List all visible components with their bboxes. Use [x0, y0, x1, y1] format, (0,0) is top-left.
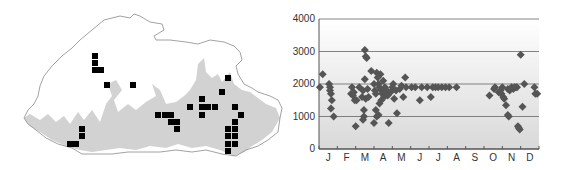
occurrence-square — [79, 133, 85, 139]
occurrence-square — [162, 112, 168, 118]
occurrence-square — [174, 119, 180, 125]
x-tick-label: S — [468, 152, 482, 163]
x-tick-label: J — [431, 152, 445, 163]
y-tick-label: 1000 — [281, 111, 315, 122]
occurrence-square — [174, 126, 180, 132]
occurrence-square — [232, 119, 238, 125]
occurrence-square — [98, 67, 104, 73]
occurrence-square — [238, 112, 244, 118]
x-tick-label: J — [321, 152, 335, 163]
occurrence-square — [225, 75, 231, 81]
x-tick-label: M — [395, 152, 409, 163]
occurrence-square — [225, 133, 231, 139]
occurrence-square — [92, 60, 98, 66]
occurrence-square — [232, 104, 238, 110]
x-tick-label: A — [376, 152, 390, 163]
occurrence-square — [92, 67, 98, 73]
occurrence-square — [187, 104, 193, 110]
occurrence-square — [199, 112, 205, 118]
occurrence-square — [130, 82, 136, 88]
occurrence-square — [219, 89, 225, 95]
y-tick-label: 2000 — [281, 78, 315, 89]
x-tick-label: N — [505, 152, 519, 163]
scatter-plot — [290, 0, 563, 170]
y-tick-label: 0 — [281, 143, 315, 154]
occurrence-square — [73, 141, 79, 147]
occurrence-square — [168, 119, 174, 125]
occurrence-square — [225, 126, 231, 132]
x-tick-label: J — [413, 152, 427, 163]
x-tick-label: F — [340, 152, 354, 163]
relief-shading — [24, 58, 280, 156]
x-tick-label: D — [523, 152, 537, 163]
occurrence-square — [212, 104, 218, 110]
occurrence-square — [168, 112, 174, 118]
distribution-map — [0, 0, 290, 170]
occurrence-square — [225, 148, 231, 154]
occurrence-square — [205, 104, 211, 110]
occurrence-square — [232, 141, 238, 147]
y-tick-label: 4000 — [281, 13, 315, 24]
occurrence-square — [67, 141, 73, 147]
x-tick-label: O — [486, 152, 500, 163]
elevation-by-month-chart: 01000200030004000 JFMAMJJASOND — [290, 0, 563, 170]
y-tick-label: 3000 — [281, 46, 315, 57]
occurrence-square — [92, 53, 98, 59]
occurrence-square — [155, 112, 161, 118]
occurrence-square — [232, 126, 238, 132]
occurrence-square — [225, 141, 231, 147]
x-tick-label: A — [450, 152, 464, 163]
x-tick-label: M — [358, 152, 372, 163]
occurrence-square — [104, 82, 110, 88]
occurrence-square — [199, 96, 205, 102]
occurrence-square — [79, 126, 85, 132]
occurrence-square — [199, 104, 205, 110]
occurrence-square — [232, 133, 238, 139]
